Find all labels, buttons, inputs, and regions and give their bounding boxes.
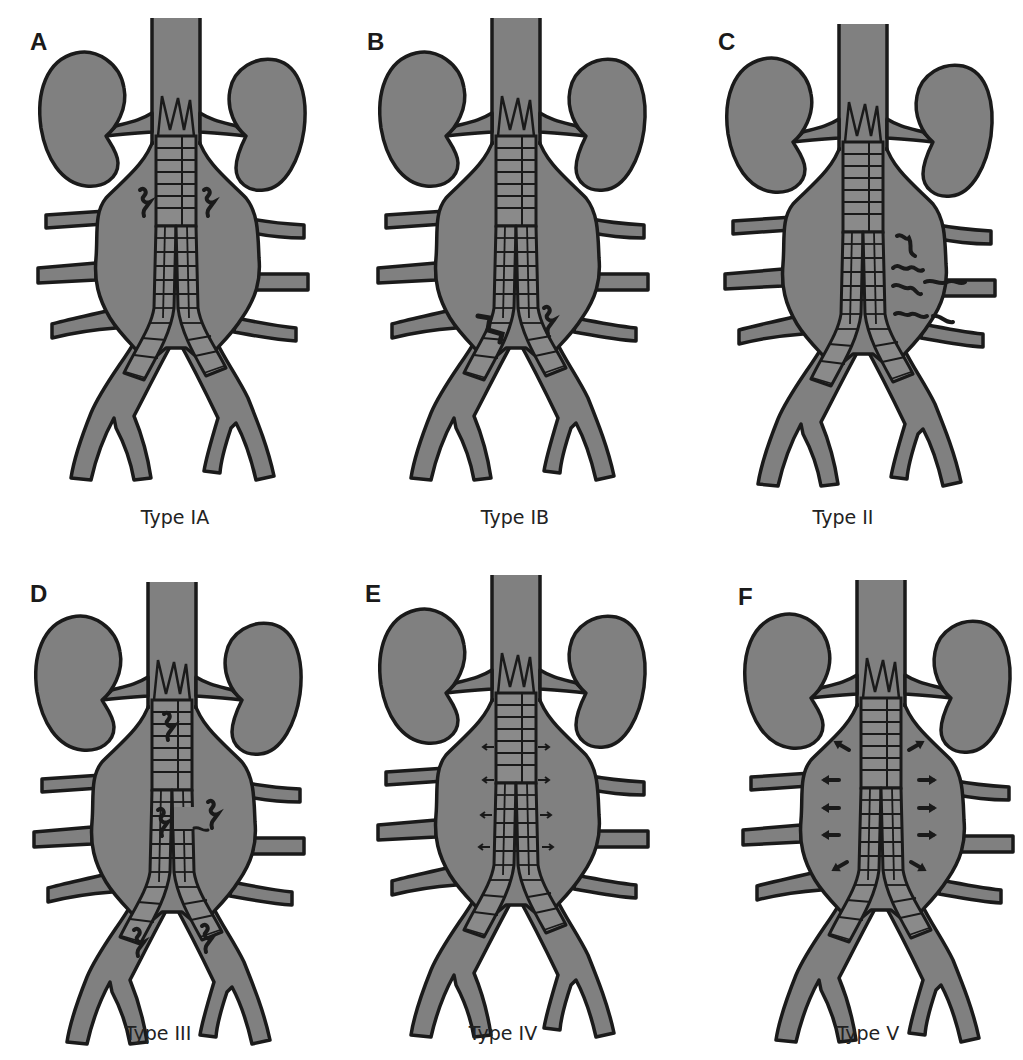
panel-letter: E — [365, 582, 381, 606]
panel-letter: A — [30, 30, 47, 54]
panel-d: D Type III — [0, 530, 340, 1060]
panel-c: C Type II — [680, 0, 1020, 530]
panel-letter: D — [30, 582, 47, 606]
aorta-diagram-type-ii — [680, 0, 1023, 530]
panel-caption: Type III — [125, 1024, 192, 1043]
aorta-diagram-type-v — [680, 530, 1023, 1060]
panel-letter: B — [367, 30, 384, 54]
panel-f: F Type V — [680, 530, 1020, 1060]
aorta-diagram-type-ib — [340, 0, 680, 530]
aorta-diagram-type-iii — [0, 530, 340, 1060]
panel-caption: Type IV — [469, 1024, 537, 1043]
panel-b: B Type IB — [340, 0, 680, 530]
panel-letter: F — [738, 585, 753, 609]
panel-a: A Type IA — [0, 0, 340, 530]
panel-letter: C — [718, 30, 735, 54]
panel-caption: Type IA — [141, 508, 209, 527]
panel-caption: Type IB — [481, 508, 549, 527]
panel-e: E Type IV — [340, 530, 680, 1060]
panel-caption: Type V — [837, 1024, 900, 1043]
aorta-diagram-type-iv — [340, 530, 680, 1060]
panel-caption: Type II — [813, 508, 874, 527]
aorta-diagram-type-ia — [0, 0, 340, 530]
